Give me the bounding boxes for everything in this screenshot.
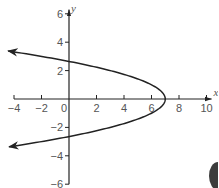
x-tick-label: 10 (200, 102, 212, 114)
y-axis-label: y (70, 2, 76, 14)
y-tick-label: 2 (57, 65, 63, 77)
y-tick: 2 (57, 65, 69, 77)
y-tick: −2 (50, 121, 69, 133)
x-tick: 8 (176, 95, 182, 114)
x-tick: 6 (148, 95, 154, 114)
corner-shadow-decoration (209, 162, 218, 188)
y-tick: −6 (50, 178, 69, 188)
x-tick-label: −2 (35, 102, 48, 114)
y-tick-label: 6 (57, 8, 63, 20)
y-tick-label: 4 (57, 36, 63, 48)
x-tick-label: 8 (176, 102, 182, 114)
x-axis-ticks: −4−20246810 (8, 95, 213, 114)
x-tick-label: −4 (8, 102, 21, 114)
x-tick: 2 (93, 95, 99, 114)
y-tick-label: −6 (50, 178, 63, 188)
y-tick: 4 (57, 36, 69, 48)
x-tick-label: 2 (93, 102, 99, 114)
y-tick-label: −4 (50, 150, 63, 162)
y-axis-ticks: 642−2−4−6 (50, 8, 69, 188)
x-tick-label: 0 (61, 102, 67, 114)
y-tick-label: −2 (50, 121, 63, 133)
parabola-chart: −4−20246810 642−2−4−6 x y (0, 0, 218, 188)
x-tick: 10 (200, 95, 212, 114)
x-tick: 0 (61, 102, 67, 114)
x-axis-label: x (213, 86, 219, 98)
x-tick: −2 (35, 95, 48, 114)
y-tick: −4 (50, 150, 69, 162)
x-tick: 4 (121, 95, 127, 114)
x-tick: −4 (8, 95, 21, 114)
y-tick: 6 (57, 8, 69, 20)
x-tick-label: 4 (121, 102, 127, 114)
